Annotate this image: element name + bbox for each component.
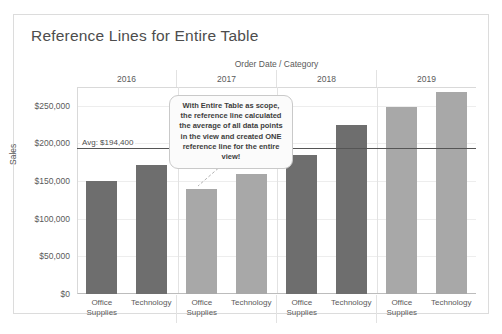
x-axis-label[interactable]: Office Supplies (277, 295, 327, 323)
bar-slot (426, 87, 476, 294)
y-tick-label: $150,000 (35, 176, 70, 186)
x-panel-2018: Office SuppliesTechnology (276, 295, 376, 323)
bar[interactable] (436, 92, 467, 294)
bar[interactable] (86, 181, 117, 294)
year-header-2019: 2019 (376, 70, 476, 87)
bar-panel-2016 (77, 87, 177, 294)
x-axis-label[interactable]: Office Supplies (177, 295, 227, 323)
annotation-callout: With Entire Table as scope, the referenc… (169, 95, 293, 169)
year-header-2017: 2017 (176, 70, 276, 87)
year-header-2016: 2016 (77, 70, 176, 87)
bottom-edge-fragment (0, 322, 502, 334)
reference-line-label: Avg: $194,400 (80, 138, 135, 147)
bar[interactable] (286, 155, 317, 294)
bar[interactable] (336, 125, 367, 294)
bar[interactable] (136, 165, 167, 294)
y-tick-label: $200,000 (35, 138, 70, 148)
chart-title: Reference Lines for Entire Table (31, 27, 259, 45)
x-axis-label[interactable]: Technology (327, 295, 377, 323)
y-tick-label: $50,000 (39, 251, 70, 261)
y-tick-label: $250,000 (35, 101, 70, 111)
x-axis-labels: Office SuppliesTechnologyOffice Supplies… (77, 295, 476, 323)
bar-panel-2019 (376, 87, 476, 294)
x-panel-2019: Office SuppliesTechnology (376, 295, 476, 323)
y-tick-label: $0 (61, 289, 70, 299)
bar[interactable] (186, 189, 217, 294)
chart-card: Reference Lines for Entire Table Order D… (13, 14, 489, 314)
bar[interactable] (236, 174, 267, 294)
x-axis-label[interactable]: Office Supplies (77, 295, 127, 323)
bar-slot (376, 87, 426, 294)
column-header-label: Order Date / Category (77, 59, 476, 69)
y-tick-label: $100,000 (35, 214, 70, 224)
bar-slot (77, 87, 127, 294)
x-axis-label[interactable]: Technology (127, 295, 177, 323)
x-axis-label[interactable]: Technology (427, 295, 477, 323)
x-axis-label[interactable]: Office Supplies (377, 295, 427, 323)
top-edge-fragment (0, 0, 502, 12)
bar-slot (326, 87, 376, 294)
x-panel-2017: Office SuppliesTechnology (176, 295, 276, 323)
x-panel-2016: Office SuppliesTechnology (77, 295, 176, 323)
year-header-2018: 2018 (276, 70, 376, 87)
y-axis-ticks: $0$50,000$100,000$150,000$200,000$250,00… (14, 87, 74, 294)
bar[interactable] (386, 107, 417, 294)
x-axis-label[interactable]: Technology (227, 295, 277, 323)
year-header-row: 2016201720182019 (77, 70, 476, 88)
